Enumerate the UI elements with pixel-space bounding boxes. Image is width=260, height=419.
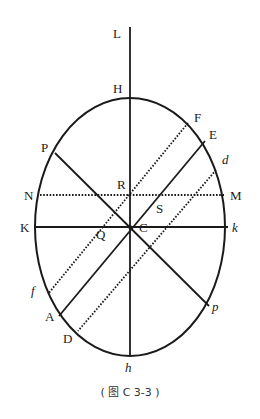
label-h: h	[125, 360, 132, 375]
label-d: d	[222, 152, 229, 167]
label-N: N	[24, 188, 34, 203]
diameter-E-A	[59, 141, 205, 316]
label-M: M	[230, 188, 242, 203]
label-S: S	[156, 201, 163, 216]
label-p: p	[211, 299, 219, 314]
label-H: H	[113, 81, 122, 96]
label-L: L	[113, 26, 121, 41]
chord-F-f	[48, 123, 188, 294]
label-R: R	[117, 177, 126, 192]
label-D: D	[63, 331, 72, 346]
label-A: A	[45, 309, 55, 324]
ellipse-diagram: L H F E d P N R M S K Q C k f A D p h ( …	[0, 0, 260, 419]
label-k: k	[232, 220, 238, 235]
label-f: f	[31, 283, 37, 298]
label-F: F	[194, 110, 201, 125]
label-Q: Q	[96, 227, 106, 242]
label-K: K	[20, 220, 30, 235]
label-C: C	[139, 220, 148, 235]
figure-caption: ( 图 C 3-3 )	[100, 386, 159, 399]
center-point-C	[128, 225, 132, 229]
label-E: E	[209, 127, 217, 142]
label-P: P	[41, 140, 48, 155]
